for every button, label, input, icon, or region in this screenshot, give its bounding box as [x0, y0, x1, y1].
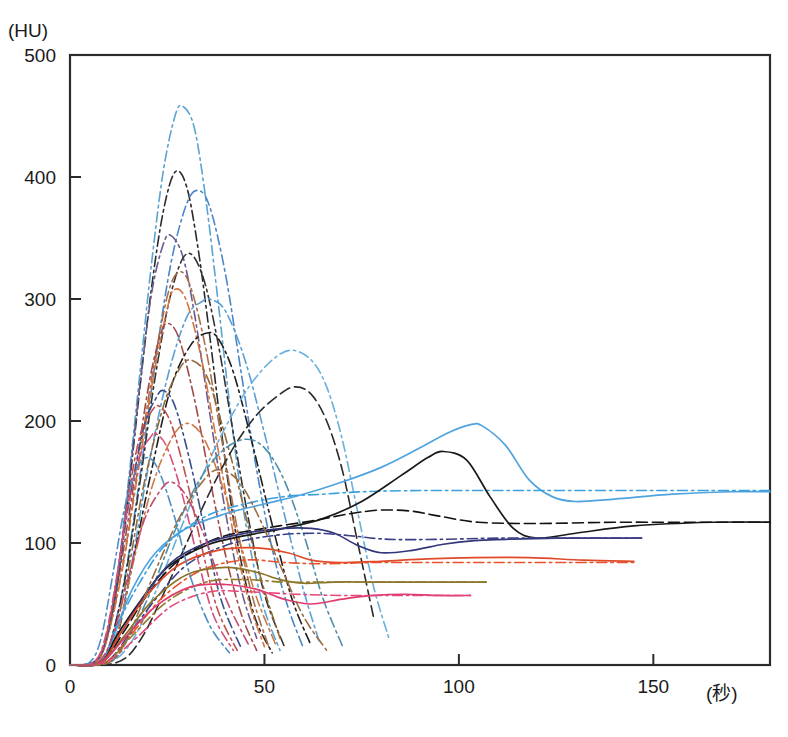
svg-text:300: 300: [24, 289, 56, 310]
svg-text:200: 200: [24, 411, 56, 432]
series-line: [70, 510, 770, 666]
data-series-layer: [70, 105, 770, 666]
series-line: [70, 579, 486, 665]
series-line: [70, 423, 276, 665]
svg-text:500: 500: [24, 45, 56, 66]
svg-text:0: 0: [45, 655, 56, 676]
axis-frame: [70, 55, 770, 665]
x-axis-unit-label: (秒): [706, 678, 738, 705]
svg-text:150: 150: [637, 676, 669, 697]
y-axis-unit-label: (HU): [8, 20, 48, 42]
time-density-curve-plot: 0100200300400500 050100150: [0, 0, 788, 737]
svg-text:0: 0: [65, 676, 76, 697]
series-line: [70, 439, 342, 665]
svg-text:100: 100: [24, 533, 56, 554]
chart-container: (HU) (秒) 0100200300400500 050100150: [0, 0, 788, 737]
series-line: [70, 323, 257, 665]
y-axis-tick-labels: 0100200300400500: [24, 45, 56, 676]
svg-text:50: 50: [254, 676, 275, 697]
series-line: [70, 272, 268, 665]
svg-text:400: 400: [24, 167, 56, 188]
x-axis-tick-labels: 050100150: [65, 676, 669, 697]
svg-text:100: 100: [443, 676, 475, 697]
